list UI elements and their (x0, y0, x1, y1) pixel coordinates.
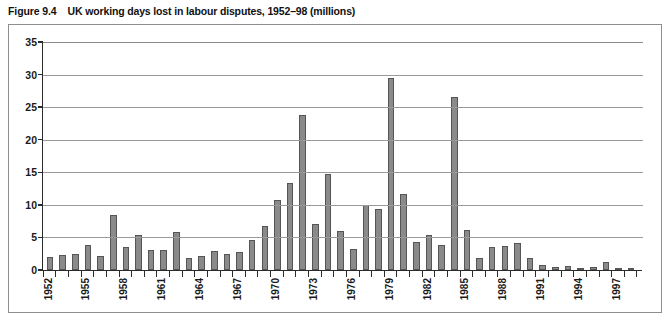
x-tick-mark (434, 271, 435, 277)
x-tick-mark (106, 271, 107, 277)
y-tick-mark-25 (38, 106, 43, 107)
y-tick-label-10: 10 (25, 200, 37, 211)
x-tick-label-1967: 1967 (233, 278, 243, 300)
bar-1959 (135, 235, 142, 270)
x-tick-label-1994: 1994 (574, 278, 584, 300)
x-tick-label-1958: 1958 (119, 278, 129, 300)
figure-caption: Figure 9.4 UK working days lost in labou… (8, 3, 355, 19)
x-tick-mark (586, 271, 587, 277)
x-tick-mark (396, 271, 397, 277)
y-axis: 05101520253035 (9, 25, 41, 314)
x-tick-label-1955: 1955 (81, 278, 91, 300)
bar-1987 (489, 247, 496, 270)
bar-1973 (312, 224, 319, 270)
gridline-20 (43, 140, 643, 141)
x-tick-mark (510, 271, 511, 277)
y-tick-label-30: 30 (25, 69, 37, 80)
bar-1986 (476, 258, 483, 270)
bar-1957 (110, 215, 117, 270)
gridline-5 (43, 237, 643, 238)
x-tick-mark (422, 271, 423, 277)
x-tick-mark (169, 271, 170, 277)
x-tick-mark (359, 271, 360, 277)
bar-1966 (224, 254, 231, 270)
x-tick-label-1973: 1973 (309, 278, 319, 300)
gridline-15 (43, 172, 643, 173)
bar-1988 (502, 246, 509, 270)
y-tick-mark-35 (38, 41, 43, 42)
gridline-30 (43, 75, 643, 76)
x-axis-ticks (42, 271, 642, 277)
bar-1963 (186, 258, 193, 270)
x-tick-mark (245, 271, 246, 277)
x-tick-label-1976: 1976 (347, 278, 357, 300)
figure-title: UK working days lost in labour disputes,… (68, 5, 356, 17)
y-tick-label-5: 5 (31, 232, 37, 243)
x-tick-mark (232, 271, 233, 277)
x-tick-mark (472, 271, 473, 277)
bar-1968 (249, 240, 256, 270)
x-tick-mark (636, 271, 637, 277)
x-tick-mark (156, 271, 157, 277)
bar-1955 (85, 245, 92, 270)
plot-area (42, 42, 643, 270)
x-tick-label-1982: 1982 (423, 278, 433, 300)
y-tick-label-0: 0 (31, 265, 37, 276)
bar-1982 (426, 235, 433, 270)
gridline-35 (43, 42, 643, 43)
x-tick-mark (548, 271, 549, 277)
bar-1985 (464, 230, 471, 270)
x-tick-mark (194, 271, 195, 277)
x-tick-mark (485, 271, 486, 277)
x-axis-labels: 1952195519581961196419671970197319761979… (42, 278, 642, 314)
bar-1972 (299, 115, 306, 270)
bar-1958 (123, 247, 130, 270)
x-tick-mark (144, 271, 145, 277)
x-tick-mark (308, 271, 309, 277)
figure-number: Figure 9.4 (8, 5, 57, 17)
x-tick-label-1970: 1970 (271, 278, 281, 300)
x-tick-label-1952: 1952 (44, 278, 54, 300)
figure-frame: 05101520253035 1952195519581961196419671… (8, 24, 662, 313)
x-tick-mark (207, 271, 208, 277)
y-tick-mark-10 (38, 204, 43, 205)
y-tick-label-35: 35 (25, 37, 37, 48)
x-tick-mark (270, 271, 271, 277)
bar-1952 (47, 257, 54, 270)
x-tick-label-1997: 1997 (612, 278, 622, 300)
x-tick-label-1961: 1961 (157, 278, 167, 300)
x-tick-mark (119, 271, 120, 277)
x-tick-mark (257, 271, 258, 277)
x-tick-mark (43, 271, 44, 277)
x-tick-mark (220, 271, 221, 277)
x-tick-mark (93, 271, 94, 277)
x-tick-label-1979: 1979 (385, 278, 395, 300)
gridline-10 (43, 205, 643, 206)
x-tick-mark (611, 271, 612, 277)
x-tick-mark (371, 271, 372, 277)
bar-1969 (262, 226, 269, 270)
y-tick-label-15: 15 (25, 167, 37, 178)
x-tick-mark (599, 271, 600, 277)
bar-1954 (72, 254, 79, 270)
x-tick-label-1991: 1991 (536, 278, 546, 300)
bar-1981 (413, 242, 420, 270)
gridline-25 (43, 107, 643, 108)
bar-1953 (59, 255, 66, 270)
bar-1996 (603, 262, 610, 270)
y-tick-mark-30 (38, 74, 43, 75)
x-tick-mark (535, 271, 536, 277)
x-tick-mark (55, 271, 56, 277)
x-tick-mark (561, 271, 562, 277)
x-tick-mark (523, 271, 524, 277)
x-tick-mark (81, 271, 82, 277)
x-tick-mark (321, 271, 322, 277)
bar-1974 (325, 174, 332, 270)
bar-1960 (148, 250, 155, 270)
bar-1983 (438, 245, 445, 270)
bar-chart: 05101520253035 1952195519581961196419671… (9, 25, 663, 314)
bar-1971 (287, 183, 294, 270)
x-tick-mark (295, 271, 296, 277)
y-tick-label-20: 20 (25, 134, 37, 145)
x-tick-mark (346, 271, 347, 277)
